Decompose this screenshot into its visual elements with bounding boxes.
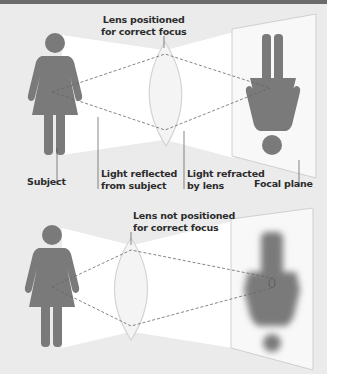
label-lens-positioned: Lens positioned for correct focus [101, 14, 186, 37]
label-line: Light reflected [101, 168, 177, 180]
light-beam-refracted [133, 221, 233, 348]
label-focal-plane: Focal plane [254, 178, 313, 190]
label-line: Light refracted [187, 168, 265, 180]
label-lens-not-positioned: Lens not positioned for correct focus [133, 210, 235, 233]
label-line: Lens positioned [101, 14, 186, 26]
top-panel [28, 14, 316, 189]
label-line: from subject [101, 180, 177, 192]
label-light-reflected: Light reflected from subject [101, 168, 177, 191]
label-line: for correct focus [101, 26, 186, 38]
label-line: by lens [187, 180, 265, 192]
label-subject: Subject [27, 176, 66, 188]
label-text: Subject [27, 176, 66, 187]
label-light-refracted: Light refracted by lens [187, 168, 265, 191]
focus-diagram [0, 0, 341, 383]
label-line: Lens not positioned [133, 210, 235, 222]
label-text: Focal plane [254, 178, 313, 189]
label-line: for correct focus [133, 222, 235, 234]
